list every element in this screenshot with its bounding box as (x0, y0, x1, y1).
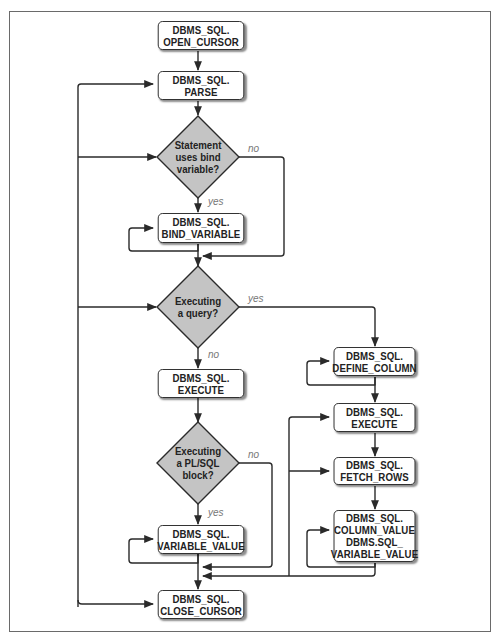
edge-label-query-no: no (208, 349, 219, 360)
decision-plsql-line3: block? (175, 469, 221, 481)
node-bind-variable-line1: DBMS_SQL. (172, 216, 229, 228)
node-execute-left-line1: DBMS_SQL. (172, 372, 229, 384)
flowchart-connectors (0, 0, 504, 642)
node-fetch-rows-line1: DBMS_SQL. (346, 459, 403, 471)
decision-query-line1: Executing (175, 295, 221, 307)
node-parse-line2: PARSE (184, 86, 217, 98)
decision-bind-line1: Statement (175, 139, 222, 151)
decision-bind-line2: uses bind (175, 151, 222, 163)
decision-plsql-line1: Executing (175, 445, 221, 457)
node-open-cursor-line2: OPEN_CURSOR (163, 36, 239, 48)
node-column-value-line1: DBMS_SQL. (346, 512, 403, 524)
node-define-column: DBMS_SQL. DEFINE_COLUMN (334, 347, 416, 376)
edge-label-bind-no: no (248, 143, 259, 154)
decision-query-line2: a query? (175, 307, 221, 319)
edge-label-plsql-yes: yes (208, 507, 224, 518)
edge-label-plsql-no: no (248, 449, 259, 460)
node-execute-left-line2: EXECUTE (178, 384, 224, 396)
edge-label-query-yes: yes (248, 293, 264, 304)
node-parse-line1: DBMS_SQL. (172, 74, 229, 86)
node-close-cursor-line1: DBMS_SQL. (172, 593, 229, 605)
node-define-column-line1: DBMS_SQL. (346, 350, 403, 362)
node-bind-variable: DBMS_SQL. BIND_VARIABLE (158, 213, 244, 243)
node-column-value-line2: COLUMN_VALUE (334, 524, 415, 536)
node-execute-right-line1: DBMS_SQL. (346, 406, 403, 418)
node-fetch-rows: DBMS_SQL. FETCH_ROWS (334, 457, 416, 485)
node-column-value: DBMS_SQL. COLUMN_VALUE DBMS.SQL_ VARIABL… (334, 510, 416, 562)
node-bind-variable-line2: BIND_VARIABLE (162, 228, 241, 240)
node-variable-value: DBMS_SQL. VARIABLE_VALUE (158, 525, 244, 554)
node-variable-value-line1: DBMS_SQL. (172, 528, 229, 540)
node-open-cursor-line1: DBMS_SQL. (172, 24, 229, 36)
edge-label-bind-yes: yes (208, 196, 224, 207)
node-fetch-rows-line2: FETCH_ROWS (340, 471, 409, 483)
node-execute-right: DBMS_SQL. EXECUTE (334, 403, 416, 432)
node-execute-left: DBMS_SQL. EXECUTE (158, 369, 244, 398)
decision-plsql-line2: a PL/SQL (175, 457, 221, 469)
decision-bind-line3: variable? (175, 163, 222, 175)
node-column-value-line4: VARIABLE_VALUE (331, 548, 418, 560)
node-variable-value-line2: VARIABLE_VALUE (157, 540, 244, 552)
node-open-cursor: DBMS_SQL. OPEN_CURSOR (158, 21, 244, 50)
decision-bind-label: Statement uses bind variable? (175, 139, 222, 175)
node-define-column-line2: DEFINE_COLUMN (332, 362, 416, 374)
node-parse: DBMS_SQL. PARSE (158, 71, 244, 100)
node-close-cursor-line2: CLOSE_CURSOR (160, 605, 242, 617)
decision-plsql-label: Executing a PL/SQL block? (175, 445, 221, 481)
node-execute-right-line2: EXECUTE (351, 418, 397, 430)
node-column-value-line3: DBMS.SQL_ (346, 536, 403, 548)
node-close-cursor: DBMS_SQL. CLOSE_CURSOR (158, 590, 244, 619)
decision-query-label: Executing a query? (175, 295, 221, 319)
